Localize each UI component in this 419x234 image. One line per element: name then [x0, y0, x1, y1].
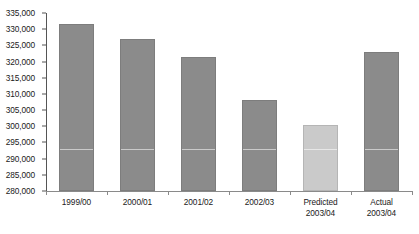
- y-axis-tick-label: 325,000: [6, 41, 35, 50]
- y-axis-tick-label: 280,000: [6, 187, 35, 196]
- y-axis-tick-label: 305,000: [6, 106, 35, 115]
- bar-internal-gridline: [304, 149, 337, 150]
- x-axis-tick-mark: [46, 191, 47, 195]
- bar-2001-02[interactable]: [181, 57, 216, 191]
- y-axis-tick-label: 330,000: [6, 25, 35, 34]
- y-axis-tick-label: 335,000: [6, 9, 35, 18]
- x-axis-tick-mark: [229, 191, 230, 195]
- plot-area: [46, 13, 412, 191]
- bar-2002-03[interactable]: [242, 100, 277, 191]
- y-axis-tick-label: 300,000: [6, 122, 35, 131]
- bar-2000-01[interactable]: [120, 39, 155, 191]
- y-axis: 335,000330,000325,000320,000315,000310,0…: [0, 0, 42, 234]
- y-axis-tick-label: 290,000: [6, 154, 35, 163]
- y-axis-tick-label: 315,000: [6, 73, 35, 82]
- x-axis-tick-mark: [351, 191, 352, 195]
- y-axis-tick-label: 285,000: [6, 170, 35, 179]
- x-axis-tick-mark: [290, 191, 291, 195]
- bar-1999-00[interactable]: [59, 24, 94, 191]
- x-axis-label-line: 2003/04: [343, 208, 419, 219]
- x-axis-label-line: Actual: [343, 197, 419, 208]
- bar-internal-gridline: [365, 149, 398, 150]
- y-axis-tick-label: 320,000: [6, 57, 35, 66]
- bar-internal-gridline: [121, 149, 154, 150]
- bar-internal-gridline: [60, 149, 93, 150]
- x-axis-category-label: Actual2003/04: [343, 197, 419, 219]
- y-axis-tick-label: 295,000: [6, 138, 35, 147]
- x-axis: 1999/002000/012001/022002/03Predicted200…: [46, 197, 412, 234]
- bar-actual-2003-04[interactable]: [364, 52, 399, 191]
- bar-predicted-2003-04[interactable]: [303, 125, 338, 191]
- x-axis-tick-mark: [107, 191, 108, 195]
- y-axis-tick-label: 310,000: [6, 89, 35, 98]
- bar-internal-gridline: [243, 149, 276, 150]
- bar-internal-gridline: [182, 149, 215, 150]
- x-axis-tick-mark: [168, 191, 169, 195]
- bar-chart: 335,000330,000325,000320,000315,000310,0…: [0, 0, 419, 234]
- x-axis-tick-mark: [412, 191, 413, 195]
